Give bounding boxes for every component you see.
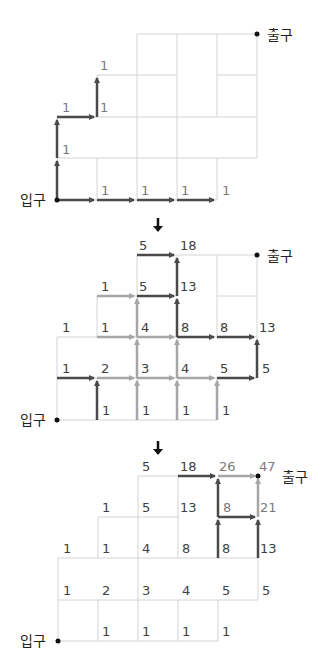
exit-dot (255, 32, 260, 37)
count-label: 1 (182, 403, 190, 418)
count-label: 8 (181, 320, 189, 335)
count-label: 2 (101, 361, 109, 376)
count-label: 1 (102, 500, 110, 515)
count-label: 8 (182, 541, 190, 556)
count-label: 4 (181, 361, 189, 376)
count-label: 1 (100, 100, 108, 115)
count-label: 1 (102, 624, 110, 639)
entrance-dot (55, 198, 60, 203)
count-label: 1 (102, 403, 110, 418)
exit-label: 출구 (267, 27, 293, 43)
exit-dot (255, 253, 260, 258)
count-label: 1 (101, 183, 109, 198)
count-label: 1 (62, 142, 70, 157)
count-label: 1 (62, 100, 70, 115)
entrance-label: 입구 (20, 412, 46, 428)
exit-dot (256, 474, 261, 479)
diagram-step-1: 입구 출구 1 1 1 1 1 1 1 1 (20, 27, 293, 208)
count-label: 1 (100, 58, 108, 73)
count-label: 1 (63, 583, 71, 598)
count-label: 5 (220, 361, 228, 376)
d3-numbers: 5 18 26 47 1 5 13 8 21 1 1 4 8 8 13 1 2 … (63, 459, 277, 639)
count-label: 1 (222, 624, 230, 639)
light-arrows (97, 296, 217, 420)
arrows (57, 78, 214, 200)
count-label: 13 (180, 279, 197, 294)
d1-numbers: 1 1 1 1 1 1 1 1 (62, 58, 230, 198)
count-label: 8 (222, 541, 230, 556)
path-counting-diagram: 입구 출구 1 1 1 1 1 1 1 1 (0, 0, 328, 667)
count-label: 13 (259, 320, 276, 335)
count-label: 5 (142, 459, 150, 474)
final-result-label: 47 (259, 459, 276, 474)
count-label: 13 (260, 541, 277, 556)
count-label: 1 (141, 183, 149, 198)
exit-label: 출구 (267, 248, 293, 264)
count-label: 1 (101, 320, 109, 335)
entrance-dot (56, 639, 61, 644)
entrance-dot (55, 418, 60, 423)
diagram-step-3: 입구 출구 5 18 26 47 1 5 13 8 21 1 1 4 8 8 1… (20, 459, 308, 649)
count-label: 1 (181, 183, 189, 198)
entrance-label: 입구 (20, 192, 46, 208)
count-label: 1 (62, 361, 70, 376)
count-label: 26 (219, 459, 236, 474)
count-label: 5 (262, 583, 270, 598)
count-label: 1 (142, 624, 150, 639)
count-label: 8 (220, 320, 228, 335)
count-label: 18 (180, 459, 197, 474)
count-label: 5 (222, 583, 230, 598)
count-label: 1 (222, 403, 230, 418)
count-label: 5 (142, 500, 150, 515)
d2-numbers: 5 18 1 5 13 1 1 4 8 8 13 1 2 3 4 5 5 1 1… (62, 238, 276, 418)
entrance-label: 입구 (20, 633, 46, 649)
count-label: 3 (142, 583, 150, 598)
count-label: 21 (260, 500, 277, 515)
count-label: 3 (141, 361, 149, 376)
count-label: 4 (141, 320, 149, 335)
count-label: 5 (139, 238, 147, 253)
count-label: 1 (182, 624, 190, 639)
count-label: 1 (101, 279, 109, 294)
count-label: 5 (139, 279, 147, 294)
count-label: 1 (222, 183, 230, 198)
count-label: 8 (223, 500, 231, 515)
count-label: 5 (262, 361, 270, 376)
count-label: 1 (62, 320, 70, 335)
count-label: 4 (182, 583, 190, 598)
count-label: 1 (142, 403, 150, 418)
count-label: 1 (63, 541, 71, 556)
diagram-step-2: 입구 출구 5 18 1 5 13 1 1 4 8 8 13 1 2 3 4 5… (20, 238, 293, 428)
down-arrow-icon (153, 218, 163, 232)
down-arrow-icon (153, 441, 163, 455)
count-label: 2 (102, 583, 110, 598)
count-label: 1 (102, 541, 110, 556)
count-label: 4 (142, 541, 150, 556)
count-label: 13 (180, 500, 197, 515)
exit-label: 출구 (282, 469, 308, 485)
count-label: 18 (180, 238, 197, 253)
